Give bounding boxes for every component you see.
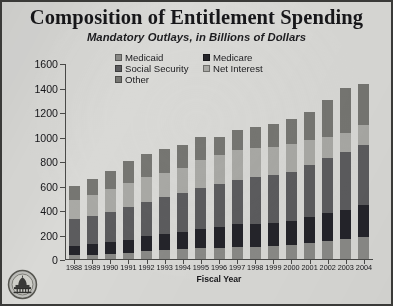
plot-area: 02004006008001000120014001600 [65,64,373,260]
x-axis-tick-label: 1998 [247,263,263,272]
legend-item-other: Other [115,74,203,85]
bar-segment [322,158,333,213]
bar-segment [250,224,261,247]
bar-segment [232,130,243,150]
legend-row: Social SecurityNet Interest [115,63,281,74]
chart-image: Composition of Entitlement Spending Mand… [0,0,393,306]
bar-segment [87,195,98,216]
bar-segment [195,229,206,248]
legend-item-net-interest: Net Interest [203,63,281,74]
y-axis-tick-label: 1200 [18,107,58,119]
bar-stack [177,145,188,259]
bar-segment [141,236,152,250]
bar-segment [87,255,98,259]
legend-item-medicaid: Medicaid [115,52,203,63]
bar-segment [358,145,369,205]
legend-label: Medicaid [125,52,163,63]
bar-segment [69,219,80,246]
bar-segment [105,189,116,212]
bar-segment [195,248,206,259]
bar-segment [177,145,188,168]
bar-segment [358,125,369,145]
bar-segment [340,88,351,134]
bar-stack [105,171,116,259]
bar-segment [322,213,333,241]
bar-segment [105,171,116,189]
legend-row: Other [115,74,281,85]
bar-segment [268,147,279,175]
bar-segment [250,127,261,148]
bar-segment [268,223,279,246]
bar-segment [286,144,297,171]
x-axis-tick-label: 1990 [102,263,118,272]
bar-segment [304,243,315,259]
bar-stack [123,161,134,259]
y-axis-tick-label: 200 [18,230,58,242]
bar-segment [214,155,225,185]
chart-subtitle: Mandatory Outlays, in Billions of Dollar… [2,31,391,43]
bar-segment [159,250,170,259]
bar-segment [322,100,333,137]
legend-swatch-icon [115,76,122,83]
x-axis-tick-label: 2003 [338,263,354,272]
bar-segment [123,183,134,207]
legend-swatch-icon [115,54,122,61]
legend-item-medicare: Medicare [203,52,281,63]
bar-stack [87,179,98,259]
bar-segment [268,175,279,222]
bar-segment [232,247,243,259]
x-axis-tick-label: 1995 [193,263,209,272]
bar-segment [195,188,206,229]
bar-segment [214,137,225,155]
bar-segment [268,246,279,259]
bar-segment [286,245,297,259]
bar-segment [232,150,243,180]
bar-segment [322,137,333,158]
bar-segment [159,173,170,197]
y-axis-tick-label: 1600 [18,58,58,70]
legend-label: Social Security [125,63,188,74]
x-axis-tick-label: 1988 [66,263,82,272]
x-axis-tick-label: 1992 [138,263,154,272]
bar-segment [250,177,261,223]
bar-segment [304,140,315,165]
bar-stack [358,84,369,259]
legend-row: MedicaidMedicare [115,52,281,63]
bar-segment [214,227,225,248]
x-axis-tick-label: 1997 [229,263,245,272]
bar-segment [159,234,170,250]
chart-title: Composition of Entitlement Spending [2,7,391,29]
bar-segment [123,253,134,259]
bar-stack [159,149,170,259]
bar-segment [141,154,152,178]
bar-segment [105,212,116,242]
bar-segment [177,168,188,193]
capitol-dome-seal-icon [7,269,38,300]
bar-segment [250,148,261,178]
bar-stack [250,127,261,259]
bar-segment [340,152,351,209]
bar-stack [304,112,315,259]
x-axis-tick-label: 1996 [211,263,227,272]
bar-segment [69,186,80,201]
bar-stack [214,137,225,259]
bar-segment [358,205,369,237]
x-axis-tick-label: 2002 [320,263,336,272]
bar-stack [322,100,333,259]
y-axis-tick-label: 0 [18,254,58,266]
bar-segment [69,246,80,256]
bar-stack [268,124,279,259]
bar-segment [195,137,206,160]
legend-swatch-icon [115,65,122,72]
x-axis-tick-label: 1993 [157,263,173,272]
bar-segment [286,172,297,221]
bar-series-group [65,64,373,260]
bar-segment [340,133,351,152]
bar-stack [195,137,206,259]
bar-segment [69,200,80,219]
bar-segment [358,84,369,126]
bar-stack [286,119,297,259]
bar-segment [177,193,188,232]
bar-segment [123,207,134,240]
bar-segment [286,221,297,245]
